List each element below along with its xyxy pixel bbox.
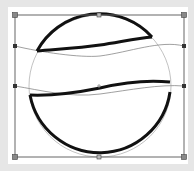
handle-bottom-center[interactable]	[97, 155, 101, 159]
handle-top-left[interactable]	[13, 13, 18, 18]
handle-left-lower[interactable]	[13, 84, 17, 88]
handle-bottom-left[interactable]	[13, 155, 18, 160]
vector-drawing[interactable]	[0, 0, 194, 171]
handle-left-upper[interactable]	[13, 44, 17, 48]
handle-top-center[interactable]	[97, 13, 101, 17]
handle-bottom-right[interactable]	[182, 155, 187, 160]
handle-right-upper[interactable]	[182, 44, 186, 48]
seam-band-lower[interactable]	[30, 81, 170, 95]
handle-top-right[interactable]	[182, 13, 187, 18]
ball-bottom-body[interactable]	[30, 92, 170, 153]
handle-right-lower[interactable]	[182, 84, 186, 88]
